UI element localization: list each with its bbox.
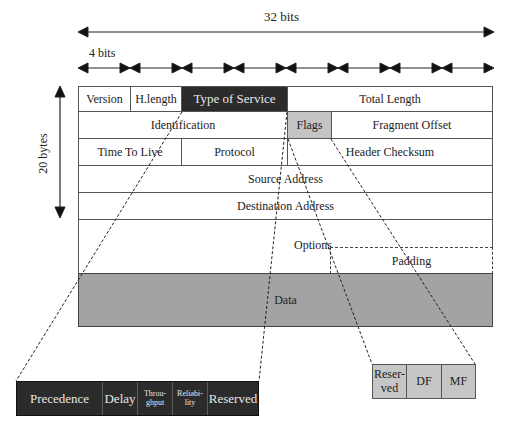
reserved-flag-label-line1: Reser- [374, 368, 405, 382]
reliability-label-line2: lity [185, 399, 196, 407]
fragment-offset-label: Fragment Offset [373, 119, 452, 132]
type-of-service-label: Type of Service [193, 92, 275, 106]
version-field: Version [78, 86, 131, 112]
reliability-bit: Reliabi-lity [173, 382, 208, 415]
data-label: Data [274, 294, 297, 307]
df-flag-bit: DF [406, 364, 442, 399]
header-checksum-label: Header Checksum [346, 146, 434, 159]
ttl-label: Time To Live [97, 146, 162, 159]
delay-bit: Delay [103, 382, 138, 415]
destination-address-label: Destination Address [237, 200, 334, 213]
4-bits-label: 4 bits [89, 46, 115, 61]
4-bit-arrows [78, 63, 494, 73]
header-checksum-field: Header Checksum [287, 138, 493, 166]
header-length-label: H.length [135, 93, 177, 106]
source-address-field: Source Address [78, 165, 493, 193]
throughput-bit: Throu-ghput [138, 382, 173, 415]
df-label: DF [416, 375, 431, 389]
reserved-flag-label-line2: ved [381, 382, 398, 396]
reserved-flag-bit: Reser-ved [372, 364, 407, 399]
reserved-tos-label: Reserved [209, 392, 257, 406]
precedence-bits: Precedence [17, 382, 103, 415]
reserved-tos-bits: Reserved [208, 382, 258, 415]
protocol-field: Protocol [181, 138, 288, 166]
total-length-field: Total Length [287, 86, 493, 112]
20-bytes-arrow [55, 86, 65, 218]
32-bits-label: 32 bits [264, 9, 299, 25]
ttl-field: Time To Live [78, 138, 182, 166]
type-of-service-field: Type of Service [181, 86, 288, 112]
throughput-label-line2: ghput [146, 399, 164, 407]
flags-field: Flags [287, 111, 332, 139]
options-label: Options [294, 239, 332, 252]
fragment-offset-field: Fragment Offset [331, 111, 493, 139]
mf-flag-bit: MF [441, 364, 476, 399]
header-length-field: H.length [130, 86, 182, 112]
data-field: Data [78, 273, 493, 327]
mf-label: MF [450, 375, 467, 389]
identification-field: Identification [78, 111, 288, 139]
delay-label: Delay [104, 392, 135, 406]
32-bits-arrow [78, 27, 494, 37]
total-length-label: Total Length [359, 93, 420, 106]
type-of-service-breakdown: Precedence Delay Throu-ghput Reliabi-lit… [16, 381, 259, 416]
identification-label: Identification [151, 119, 216, 132]
20-bytes-label: 20 bytes [36, 129, 51, 179]
source-address-label: Source Address [248, 173, 323, 186]
version-label: Version [86, 93, 123, 106]
padding-label: Padding [392, 255, 431, 268]
padding-field: Padding [330, 247, 493, 274]
precedence-label: Precedence [30, 392, 89, 406]
protocol-label: Protocol [214, 146, 255, 159]
destination-address-field: Destination Address [78, 192, 493, 220]
flags-label: Flags [296, 119, 322, 132]
